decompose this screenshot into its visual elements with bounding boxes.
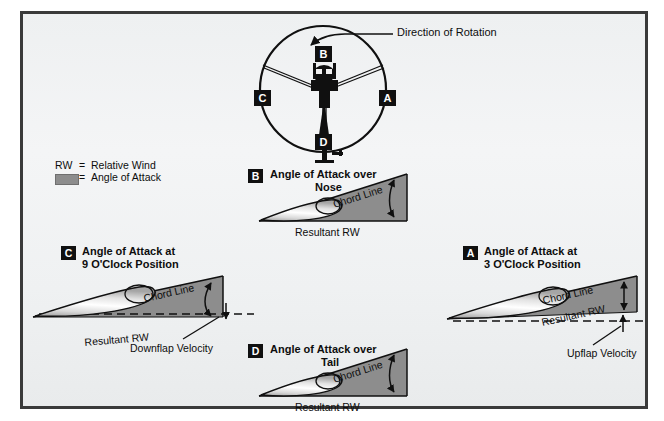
section-d-title-line2: Tail xyxy=(321,356,339,369)
section-b-title-line1: Angle of Attack over xyxy=(270,168,377,181)
legend-swatch-equals: = xyxy=(79,171,85,183)
section-c-badge: C xyxy=(61,246,76,260)
legend-rw-equals: = xyxy=(79,159,85,171)
section-c-title-line1: Angle of Attack at xyxy=(82,245,175,258)
legend-angle-swatch xyxy=(55,174,79,185)
section-c-graphic xyxy=(33,276,254,339)
section-c-velocity-label: Downflap Velocity xyxy=(130,342,213,354)
section-a-velocity-label: Upflap Velocity xyxy=(567,347,636,359)
section-d-badge: D xyxy=(248,344,263,358)
section-a-title-line1: Angle of Attack at xyxy=(484,245,577,258)
disc-badge-a: A xyxy=(379,90,396,106)
section-d-title-line1: Angle of Attack over xyxy=(270,343,377,356)
section-a-badge: A xyxy=(463,246,478,260)
section-a-graphic xyxy=(447,276,645,345)
section-d-rw-label: Resultant RW xyxy=(295,401,360,413)
legend-rw-meaning: Relative Wind xyxy=(91,159,156,171)
figure-canvas: Direction of Rotation B A C D RW = Relat… xyxy=(0,0,664,421)
section-c-title-line2: 9 O'Clock Position xyxy=(82,258,179,271)
section-a-title-line2: 3 O'Clock Position xyxy=(484,258,581,271)
disc-badge-d: D xyxy=(315,134,332,150)
section-b-rw-label: Resultant RW xyxy=(295,226,360,238)
section-b-badge: B xyxy=(248,169,263,183)
legend-swatch-meaning: Angle of Attack xyxy=(91,171,161,183)
section-b-title-line2: Nose xyxy=(315,181,342,194)
figure-frame: Direction of Rotation B A C D RW = Relat… xyxy=(20,11,648,409)
disc-badge-c: C xyxy=(254,90,271,106)
disc-badge-b: B xyxy=(315,46,332,62)
legend-rw-abbrev: RW xyxy=(55,159,72,171)
direction-of-rotation-label: Direction of Rotation xyxy=(397,26,497,39)
